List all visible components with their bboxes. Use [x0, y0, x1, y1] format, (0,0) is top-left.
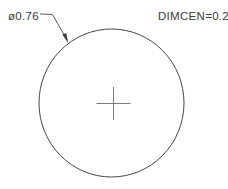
cad-drawing-canvas: ø0.76 DIMCEN=0.2 [0, 0, 228, 189]
cad-drawing-svg: ø0.76 DIMCEN=0.2 [0, 0, 228, 189]
leader-shoulder-line [40, 14, 53, 15]
dimcen-label: DIMCEN=0.2 [158, 10, 228, 22]
leader-arrow-head-icon [62, 33, 68, 43]
diameter-label: ø0.76 [8, 10, 39, 22]
